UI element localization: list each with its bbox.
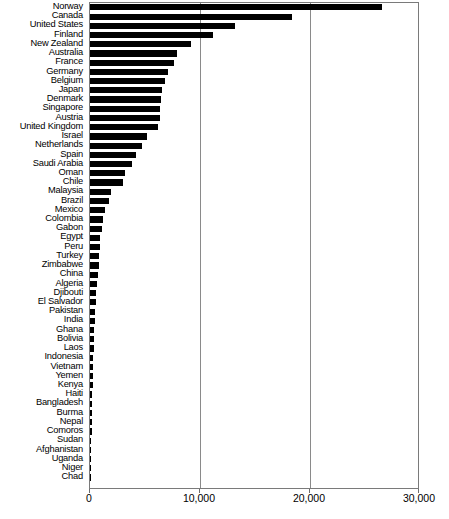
- bar-row: [90, 21, 418, 30]
- bar-row: [90, 40, 418, 49]
- bar-row: [90, 390, 418, 399]
- bar: [90, 465, 91, 471]
- bar-row: [90, 280, 418, 289]
- bar: [90, 207, 105, 213]
- bar: [90, 447, 91, 453]
- bar-row: [90, 261, 418, 270]
- bar: [90, 69, 168, 75]
- bar-row: [90, 243, 418, 252]
- bar-row: [90, 335, 418, 344]
- bar-row: [90, 316, 418, 325]
- x-axis-label-group: 010,00020,00030,000: [0, 492, 449, 508]
- bar-row: [90, 141, 418, 150]
- bar: [90, 133, 147, 139]
- bar: [90, 428, 92, 434]
- bar-row: [90, 307, 418, 316]
- x-axis-tick-label: 0: [86, 492, 92, 505]
- bar-row: [90, 114, 418, 123]
- category-label-column: NorwayCanadaUnited StatesFinlandNew Zeal…: [0, 2, 86, 481]
- bar: [90, 345, 94, 351]
- bar: [90, 373, 93, 379]
- bar: [90, 253, 99, 259]
- bar: [90, 281, 97, 287]
- bar: [90, 41, 191, 47]
- bar-row: [90, 473, 418, 482]
- bar-row: [90, 132, 418, 141]
- bar: [90, 78, 165, 84]
- bar-row: [90, 215, 418, 224]
- bar-row: [90, 353, 418, 362]
- bar: [90, 336, 94, 342]
- bar: [90, 152, 136, 158]
- bar-row: [90, 178, 418, 187]
- bar-row: [90, 344, 418, 353]
- bar: [90, 244, 100, 250]
- bar-row: [90, 49, 418, 58]
- bar: [90, 161, 132, 167]
- bar: [90, 23, 235, 29]
- bar: [90, 216, 103, 222]
- bar-row: [90, 123, 418, 132]
- bar-row: [90, 95, 418, 104]
- bar: [90, 60, 174, 66]
- bar-row: [90, 169, 418, 178]
- bar: [90, 318, 95, 324]
- bar: [90, 474, 91, 480]
- bar: [90, 198, 109, 204]
- bar: [90, 170, 125, 176]
- bar: [90, 456, 91, 462]
- bar: [90, 401, 92, 407]
- bar-row: [90, 363, 418, 372]
- bar-row: [90, 455, 418, 464]
- bar-row: [90, 409, 418, 418]
- bar-row: [90, 197, 418, 206]
- bar-row: [90, 289, 418, 298]
- bar-row: [90, 446, 418, 455]
- bar: [90, 364, 93, 370]
- bar-row: [90, 252, 418, 261]
- bar: [90, 235, 100, 241]
- bar: [90, 382, 93, 388]
- bar-row: [90, 187, 418, 196]
- plot-area: [89, 2, 419, 489]
- bar: [90, 327, 94, 333]
- bar: [90, 309, 95, 315]
- bar-row: [90, 233, 418, 242]
- bar-row: [90, 68, 418, 77]
- bar: [90, 410, 92, 416]
- bar-row: [90, 3, 418, 12]
- bar: [90, 419, 92, 425]
- bar-row: [90, 464, 418, 473]
- bar: [90, 226, 102, 232]
- bar-row: [90, 298, 418, 307]
- bar-row: [90, 418, 418, 427]
- bar: [90, 14, 292, 20]
- bar-row: [90, 104, 418, 113]
- bar: [90, 87, 162, 93]
- bar-row: [90, 436, 418, 445]
- bar: [90, 290, 96, 296]
- bar: [90, 391, 92, 397]
- bar: [90, 272, 98, 278]
- bar-row: [90, 270, 418, 279]
- bar-row: [90, 372, 418, 381]
- bar-row: [90, 326, 418, 335]
- bar: [90, 124, 158, 130]
- bar: [90, 179, 123, 185]
- bar-row: [90, 151, 418, 160]
- x-axis-tick-label: 10,000: [183, 492, 215, 505]
- bar-chart: NorwayCanadaUnited StatesFinlandNew Zeal…: [0, 0, 449, 519]
- bar-row: [90, 427, 418, 436]
- bar: [90, 32, 213, 38]
- bar: [90, 189, 111, 195]
- bar-row: [90, 381, 418, 390]
- x-axis-tick-label: 20,000: [293, 492, 325, 505]
- bar: [90, 143, 142, 149]
- bar: [90, 438, 91, 444]
- bar-row: [90, 160, 418, 169]
- bar-row: [90, 12, 418, 21]
- bar-row: [90, 77, 418, 86]
- bar-row: [90, 86, 418, 95]
- bar: [90, 262, 99, 268]
- bar: [90, 355, 93, 361]
